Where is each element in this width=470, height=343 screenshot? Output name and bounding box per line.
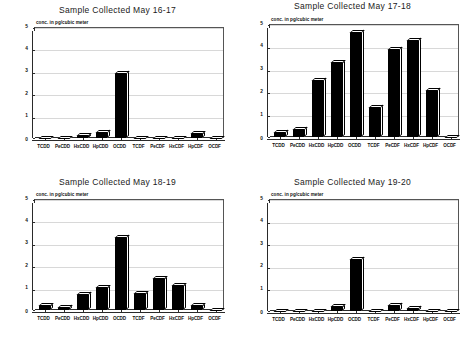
bar-top-face (210, 308, 225, 311)
x-tick-mark (140, 310, 141, 312)
x-tick-label: HpCDF (423, 143, 438, 148)
x-tick-mark (121, 310, 122, 312)
x-tick-mark (337, 137, 338, 139)
y-tick-mark (33, 73, 35, 74)
bar-top-face (153, 136, 168, 139)
y-tick-label: 3 (18, 68, 28, 73)
chart-title: Sample Collected May 16-17 (0, 5, 235, 15)
bar-top-face (445, 309, 460, 312)
y-tick-label: 0 (253, 136, 263, 141)
x-tick-label: HxCDF (404, 317, 419, 322)
gridline (35, 73, 223, 74)
bar-top-face (369, 105, 384, 108)
x-tick-label: PeCDF (385, 317, 400, 322)
bar-side-face (126, 71, 129, 138)
x-tick-label: OCDF (443, 317, 456, 322)
plot-area (269, 199, 459, 312)
plot-area (34, 199, 224, 311)
y-tick-mark (33, 222, 35, 223)
x-tick-label: PeCDF (150, 316, 165, 321)
x-tick-label: TCDD (37, 316, 49, 321)
y-tick-label: 4 (253, 43, 263, 48)
gridline (270, 245, 458, 246)
y-tick-label: 4 (253, 218, 263, 223)
x-tick-label: HxCDF (169, 144, 184, 149)
y-tick-mark (268, 93, 270, 94)
x-tick-mark (197, 310, 198, 312)
gridline (35, 267, 223, 268)
y-tick-label: 4 (18, 218, 28, 223)
bar-side-face (361, 30, 364, 137)
bar-top-face (96, 130, 111, 133)
bar-top-face (115, 71, 130, 74)
gridline (35, 118, 223, 119)
x-tick-mark (299, 137, 300, 139)
y-tick-mark (33, 95, 35, 96)
y-tick-label: 0 (253, 310, 263, 315)
x-tick-label: HpCDF (188, 316, 203, 321)
bar-top-face (39, 136, 54, 139)
bar-top-face (350, 257, 365, 260)
x-tick-mark (102, 138, 103, 140)
y-tick-label: 2 (18, 263, 28, 268)
chart-panel-2: Sample Collected May 18-19 conc. in pg/c… (0, 172, 235, 343)
x-tick-label: HpCDD (93, 316, 109, 321)
y-tick-label: 5 (253, 21, 263, 26)
x-tick-label: HxCDF (169, 316, 184, 321)
y-tick-label: 4 (18, 46, 28, 51)
x-tick-mark (83, 138, 84, 140)
y-tick-mark (268, 245, 270, 246)
x-tick-label: HxCDF (404, 143, 419, 148)
bar-side-face (361, 257, 364, 311)
bar-top-face (312, 309, 327, 312)
bar-top-face (445, 135, 460, 138)
x-tick-mark (318, 137, 319, 139)
gridline (35, 50, 223, 51)
y-tick-mark (268, 25, 270, 26)
y-tick-mark (33, 28, 35, 29)
x-tick-mark (280, 137, 281, 139)
x-tick-label: PeCDD (290, 317, 305, 322)
y-tick-mark (33, 267, 35, 268)
y-tick-label: 1 (253, 286, 263, 291)
chart-title: Sample Collected May 17-18 (235, 1, 470, 11)
bar-side-face (88, 292, 91, 310)
x-tick-label: TCDF (133, 316, 145, 321)
bar-side-face (323, 78, 326, 137)
chart-panel-1: Sample Collected May 17-18 conc. in pg/c… (235, 0, 470, 171)
bar-top-face (293, 127, 308, 130)
x-tick-label: OCDF (443, 143, 456, 148)
x-tick-mark (121, 138, 122, 140)
x-tick-mark (45, 310, 46, 312)
x-tick-mark (356, 311, 357, 313)
x-tick-label: PeCDD (290, 143, 305, 148)
y-tick-mark (268, 268, 270, 269)
x-tick-mark (375, 137, 376, 139)
x-tick-mark (394, 311, 395, 313)
x-tick-label: HpCDF (188, 144, 203, 149)
x-tick-mark (64, 310, 65, 312)
x-tick-label: TCDD (272, 317, 284, 322)
gridline (35, 222, 223, 223)
bar-top-face (210, 136, 225, 139)
x-tick-label: HpCDD (328, 317, 344, 322)
plot-area (269, 24, 459, 138)
x-tick-label: PeCDD (55, 316, 70, 321)
x-tick-mark (159, 310, 160, 312)
bar-side-face (380, 105, 383, 137)
x-tick-label: TCDF (368, 317, 380, 322)
x-tick-label: OCDD (113, 144, 126, 149)
chart-title: Sample Collected May 18-19 (0, 177, 235, 187)
x-tick-mark (432, 137, 433, 139)
y-tick-label: 0 (18, 309, 28, 314)
x-tick-label: HxCDD (74, 144, 89, 149)
bar-top-face (134, 136, 149, 139)
gridline (35, 95, 223, 96)
bar-top-face (274, 130, 289, 133)
gridline (270, 223, 458, 224)
y-tick-mark (33, 310, 35, 311)
x-tick-mark (413, 137, 414, 139)
chart-title: Sample Collected May 19-20 (235, 177, 470, 187)
y-axis-label: conc. in pg/cubic meter (271, 17, 323, 22)
bar-top-face (369, 309, 384, 312)
